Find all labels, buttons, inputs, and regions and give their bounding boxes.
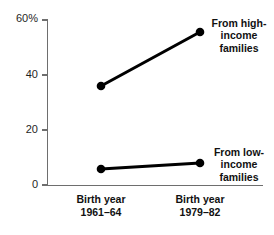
series-annotation-high-income-line2: income <box>206 29 272 41</box>
series-annotation-low-income-line3: families <box>206 171 272 183</box>
slope-chart: 60% 40 20 0 Birth year 1961–64 Birth yea… <box>0 0 274 235</box>
series-annotation-low-income: From low- income families <box>206 146 272 183</box>
series-annotation-high-income-line3: families <box>206 42 272 54</box>
y-tick-label-0: 0 <box>0 179 38 190</box>
data-point-low-income-1979-82 <box>196 159 205 168</box>
series-line-high-income <box>101 32 200 86</box>
y-tick-label-20: 20 <box>0 124 38 135</box>
x-tick-label-1961-64-line1: Birth year <box>55 193 147 206</box>
x-tick-label-1961-64-line2: 1961–64 <box>55 206 147 219</box>
series-annotation-low-income-line2: income <box>206 158 272 170</box>
x-tick-label-1961-64: Birth year 1961–64 <box>55 193 147 218</box>
series-annotation-high-income: From high- income families <box>206 17 272 54</box>
series-line-low-income <box>101 163 200 169</box>
x-tick-label-1979-82-line1: Birth year <box>154 193 246 206</box>
x-tick-label-1979-82-line2: 1979–82 <box>154 206 246 219</box>
data-point-high-income-1961-64 <box>97 82 106 91</box>
y-tick-label-60: 60% <box>0 13 38 24</box>
series-annotation-low-income-line1: From low- <box>206 146 272 158</box>
data-point-high-income-1979-82 <box>196 28 205 37</box>
series-annotation-high-income-line1: From high- <box>206 17 272 29</box>
data-point-low-income-1961-64 <box>97 165 106 174</box>
x-tick-label-1979-82: Birth year 1979–82 <box>154 193 246 218</box>
y-tick-label-40: 40 <box>0 69 38 80</box>
